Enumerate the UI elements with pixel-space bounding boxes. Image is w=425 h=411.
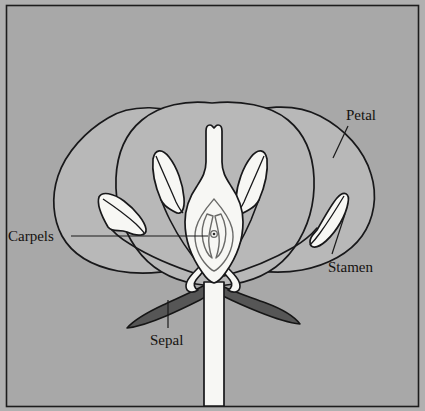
figure-canvas: Carpels Petal Stamen Sepal bbox=[0, 0, 425, 411]
pedicel-stem bbox=[204, 282, 224, 406]
label-stamen: Stamen bbox=[328, 259, 373, 275]
label-sepal: Sepal bbox=[150, 332, 183, 348]
label-petal: Petal bbox=[346, 107, 376, 123]
ovule-center-dot bbox=[213, 233, 216, 236]
label-carpels: Carpels bbox=[8, 228, 54, 244]
flower-cross-section-diagram: Carpels Petal Stamen Sepal bbox=[0, 0, 425, 411]
